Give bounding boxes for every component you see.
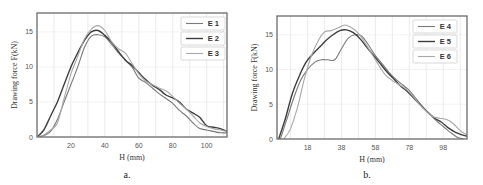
- x-tick-label: 78: [405, 144, 413, 151]
- x-tick-labels-b: 1838587898: [304, 144, 448, 151]
- y-tick-label: 5: [269, 101, 273, 108]
- y-tick-label: 5: [29, 98, 33, 105]
- x-tick-label: 20: [67, 142, 75, 149]
- y-tick-label: 0: [29, 134, 33, 141]
- y-tick-labels-a: 051015: [25, 28, 33, 140]
- panel-caption-b: b.: [363, 169, 371, 180]
- chart-panel-a: 20406080100 051015 E 1E 2E 3 H (mm) Draw…: [10, 13, 227, 180]
- series-line-e2: [37, 30, 227, 137]
- legend-label: E 5: [440, 37, 451, 46]
- legend-label: E 4: [440, 22, 452, 31]
- x-tick-label: 98: [439, 144, 447, 151]
- legend-item: E 6: [413, 50, 457, 63]
- y-tick-label: 15: [265, 31, 273, 38]
- panel-caption-a: a.: [124, 169, 131, 180]
- x-axis-label-a: H (mm): [119, 153, 145, 162]
- y-tick-label: 10: [25, 63, 33, 70]
- y-axis-label-a: Drawing force F(kN): [10, 41, 19, 109]
- x-tick-label: 38: [338, 144, 346, 151]
- x-tick-label: 18: [304, 144, 312, 151]
- x-axis-label-b: H (mm): [359, 155, 385, 164]
- x-tick-label: 58: [371, 144, 379, 151]
- y-tick-label: 15: [25, 28, 33, 35]
- legend-label: E 3: [208, 49, 219, 58]
- x-tick-label: 40: [101, 142, 109, 149]
- legend-b: E 4E 5E 6: [413, 20, 457, 63]
- legend-item: E 4: [413, 20, 457, 33]
- legend-item: E 2: [181, 32, 225, 45]
- legend-a: E 1E 2E 3: [181, 17, 225, 60]
- y-tick-labels-b: 051015: [265, 31, 273, 142]
- legend-item: E 5: [413, 35, 457, 48]
- y-tick-label: 0: [269, 136, 273, 143]
- legend-item: E 1: [181, 17, 225, 30]
- x-tick-label: 100: [201, 142, 213, 149]
- x-tick-label: 60: [135, 142, 143, 149]
- legend-item: E 3: [181, 47, 225, 60]
- legend-label: E 6: [440, 52, 451, 61]
- y-axis-label-b: Drawing force F(kN): [250, 43, 259, 111]
- x-tick-label: 80: [169, 142, 177, 149]
- legend-label: E 1: [208, 19, 219, 28]
- y-tick-label: 10: [265, 66, 273, 73]
- legend-label: E 2: [208, 34, 219, 43]
- figure: 20406080100 051015 E 1E 2E 3 H (mm) Draw…: [0, 0, 483, 185]
- chart-panel-b: 1838587898 051015 E 4E 5E 6 H (mm) Drawi…: [250, 16, 467, 180]
- x-tick-labels-a: 20406080100: [67, 142, 213, 149]
